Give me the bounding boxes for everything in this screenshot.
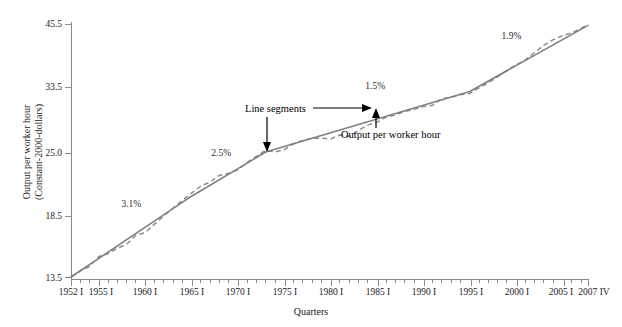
x-tick-label-1975: 1975 I [273,287,298,297]
series-line-segments [71,25,588,277]
callout-output-arrowhead-up [372,108,380,118]
callout-line-segments-label: Line segments [245,103,306,114]
y-axis-title-line1: Output per worker hour [21,104,32,199]
growth-rate-label-3-1: 3.1% [121,199,141,209]
y-tick-label-13-5: 13.5 [45,273,62,283]
growth-rate-annotations: 3.1% 2.5% 1.5% 1.9% [121,31,521,209]
x-tick-label-1990: 1990 I [412,287,437,297]
growth-rate-label-1-5: 1.5% [365,81,385,91]
y-axis-title-line2: (Constant-2000-dollars) [33,104,45,200]
x-tick-label-1952: 1952 I [59,287,84,297]
callout-output-per-worker-hour-label: Output per worker hour [341,129,441,140]
x-tick-label-1980: 1980 I [319,287,344,297]
x-axis-title: Quarters [294,306,329,317]
x-tick-label-1970: 1970 I [226,287,251,297]
x-tick-label-2005: 2005 I [549,287,574,297]
chart-figure: 45.5 33.5 25.0 18.5 13.5 1952 I 1955 I [0,0,622,327]
x-axis-tick-labels: 1952 I 1955 I 1960 I 1965 I 1970 I 1975 … [59,287,610,297]
x-tick-label-1965: 1965 I [180,287,205,297]
callout-line-segments: Line segments [245,103,372,152]
callout-arrowhead-right [362,104,372,112]
x-tick-label-1985: 1985 I [366,287,391,297]
growth-rate-label-2-5: 2.5% [211,148,231,158]
y-tick-label-18-5: 18.5 [45,211,62,221]
x-tick-label-2000: 2000 I [505,287,530,297]
y-axis-tick-labels: 45.5 33.5 25.0 18.5 13.5 [45,19,62,283]
y-tick-label-25-0: 25.0 [45,148,62,158]
callout-output-per-worker-hour: Output per worker hour [341,108,441,140]
y-axis-ticks [65,24,71,277]
x-tick-label-1960: 1960 I [133,287,158,297]
x-tick-label-1955: 1955 I [89,287,114,297]
growth-rate-label-1-9: 1.9% [502,31,522,41]
x-tick-label-1995: 1995 I [459,287,484,297]
y-tick-label-33-5: 33.5 [45,82,62,92]
chart-svg: 45.5 33.5 25.0 18.5 13.5 1952 I 1955 I [0,0,622,327]
y-tick-label-45-5: 45.5 [45,19,62,29]
axes [71,22,588,279]
x-axis-major-ticks [71,279,588,286]
x-tick-label-2007: 2007 IV [578,287,610,297]
series-output-per-worker-hour [71,25,588,277]
